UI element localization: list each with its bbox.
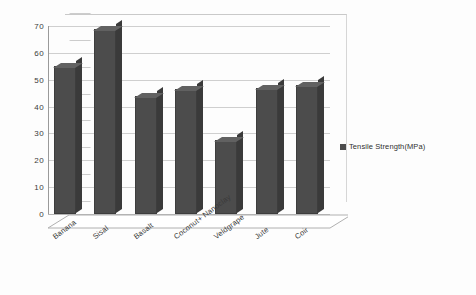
- bar-side: [76, 57, 82, 213]
- plot-area: [48, 26, 330, 214]
- bar-face: [94, 29, 116, 214]
- bar-chart: 010203040506070 BananaSisalBasaltCoconut…: [0, 0, 476, 295]
- gridline: [48, 53, 330, 54]
- y-axis-line: [48, 26, 49, 214]
- y-tick-label: 50: [8, 75, 44, 84]
- bar-face: [296, 85, 318, 214]
- bar: [94, 29, 116, 214]
- depth-connector: [48, 40, 91, 54]
- bar-side: [157, 87, 163, 213]
- bar-face: [175, 89, 197, 214]
- bar-face: [215, 140, 237, 214]
- y-tick-label: 70: [8, 22, 44, 31]
- bar-face: [54, 66, 76, 214]
- y-tick-label: 30: [8, 129, 44, 138]
- bar: [135, 96, 157, 214]
- y-tick-label: 10: [8, 183, 44, 192]
- bar-side: [278, 79, 284, 213]
- legend-label: Tensile Strength(MPa): [349, 142, 425, 151]
- bar-side: [116, 20, 122, 213]
- bar-face: [256, 88, 278, 214]
- y-tick-label: 20: [8, 156, 44, 165]
- gridline: [48, 80, 330, 81]
- legend: Tensile Strength(MPa): [340, 142, 425, 151]
- bar: [215, 140, 237, 214]
- y-tick-label: 60: [8, 48, 44, 57]
- chart-floor: [48, 214, 330, 228]
- bar-face: [135, 96, 157, 214]
- y-tick-label: 0: [8, 210, 44, 219]
- y-axis-ticks: 010203040506070: [4, 26, 44, 214]
- bar: [296, 85, 318, 214]
- bar: [54, 66, 76, 214]
- legend-swatch-icon: [340, 144, 346, 150]
- bar-side: [237, 131, 243, 213]
- y-tick-label: 40: [8, 102, 44, 111]
- bar-side: [197, 80, 203, 213]
- bar: [256, 88, 278, 214]
- gridline: [48, 26, 330, 27]
- bar-side: [318, 76, 324, 213]
- bar: [175, 89, 197, 214]
